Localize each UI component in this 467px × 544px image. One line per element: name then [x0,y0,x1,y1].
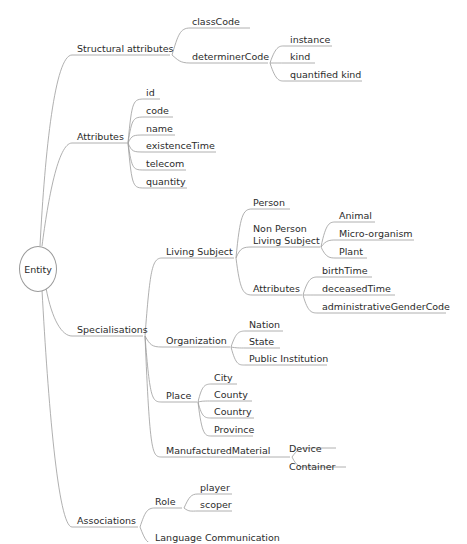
node-classcode: classCode [192,16,240,28]
node-instance: instance [290,34,330,46]
node-deceasedtime: deceasedTime [322,283,391,295]
node-language-communication: Language Communication [155,532,280,544]
node-role: Role [155,496,175,508]
node-organization: Organization [166,335,227,347]
node-county: County [214,389,248,401]
node-animal: Animal [339,210,372,222]
node-manufactured-material: ManufacturedMaterial [166,445,270,457]
node-ls-attributes: Attributes [253,283,300,295]
node-kind: kind [290,51,310,63]
node-province: Province [214,424,254,436]
node-container: Container [289,461,335,473]
node-attributes: Attributes [77,131,124,143]
node-name: name [146,123,173,135]
node-non-person-line2: Living Subject [253,235,320,247]
node-scoper: scoper [200,499,232,511]
node-nation: Nation [249,319,280,331]
node-birthtime: birthTime [322,265,368,277]
node-non-person-line1: Non Person [253,223,307,235]
node-admin-gender-code: administrativeGenderCode [322,301,450,313]
node-associations: Associations [77,515,136,527]
node-living-subject: Living Subject [166,246,233,258]
node-plant: Plant [339,246,363,258]
node-determinercode: determinerCode [192,51,269,63]
node-player: player [200,482,230,494]
node-structural-attributes: Structural attributes [77,43,173,55]
node-specialisations: Specialisations [77,324,148,336]
root-label: Entity [24,264,52,275]
node-micro-organism: Micro-organism [339,228,413,240]
node-country: Country [214,406,252,418]
node-id: id [146,87,155,99]
node-state: State [249,336,274,348]
node-quantified-kind: quantified kind [290,69,361,81]
node-quantity: quantity [146,176,186,188]
root-node-entity: Entity [19,246,57,292]
node-person: Person [253,197,285,209]
node-public-institution: Public Institution [249,353,328,365]
node-city: City [214,372,233,384]
node-code: code [146,105,169,117]
node-existencetime: existenceTime [146,140,215,152]
node-device: Device [289,443,322,455]
node-telecom: telecom [146,158,184,170]
node-place: Place [166,390,191,402]
